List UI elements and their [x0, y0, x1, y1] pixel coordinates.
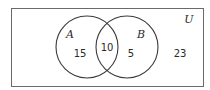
set-b-only-count: 5 [128, 48, 134, 59]
set-b-label: B [136, 28, 145, 41]
outside-count: 23 [174, 48, 187, 59]
universe-label: U [184, 13, 194, 26]
venn-diagram: U A B 15 10 5 23 [0, 0, 210, 90]
set-a-only-count: 15 [74, 48, 87, 59]
set-a-label: A [65, 28, 74, 41]
intersection-count: 10 [101, 42, 114, 53]
